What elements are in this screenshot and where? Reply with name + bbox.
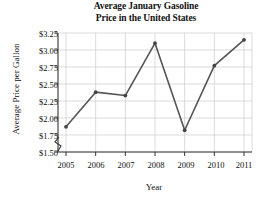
data-point-marker bbox=[123, 94, 127, 98]
data-point-marker bbox=[64, 125, 68, 129]
data-point-marker bbox=[212, 64, 216, 68]
data-point-marker bbox=[94, 90, 98, 94]
gasoline-price-line-chart: Average January Gasoline Price in the Un… bbox=[0, 0, 260, 201]
x-axis-ticks bbox=[66, 152, 244, 156]
plot-area bbox=[0, 0, 260, 201]
data-point-marker bbox=[183, 128, 187, 132]
data-point-marker bbox=[242, 38, 246, 42]
data-point-marker bbox=[153, 41, 157, 45]
